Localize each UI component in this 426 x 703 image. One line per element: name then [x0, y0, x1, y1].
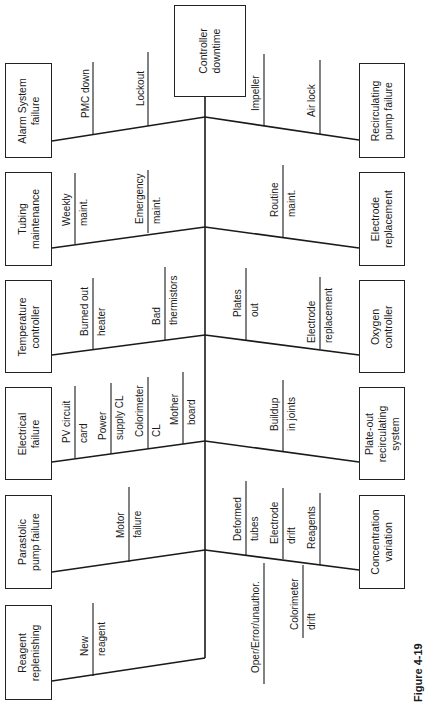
cause-title: maintenance — [29, 189, 42, 249]
cause-title: Temperature — [16, 297, 29, 356]
cause-title: Plate-out — [363, 405, 376, 462]
subcause-label: Lockout — [132, 71, 149, 106]
cause-title: failure — [29, 78, 42, 143]
cause-box-plateout: Plate-outrecirculatingsystem — [359, 387, 405, 480]
cause-title: Parastolic — [16, 513, 29, 571]
subcause-label: Motherboard — [166, 394, 200, 425]
cause-title: Tubing — [16, 189, 29, 249]
subcause-label: Routinemaint. — [266, 183, 300, 217]
effect-label-2: downtime — [210, 28, 223, 74]
cause-title: recirculating — [376, 405, 389, 462]
bone-alarm — [52, 117, 205, 141]
cause-box-parastolic: Parastolicpump failure — [5, 495, 52, 589]
cause-box-electrical: Electricalfailure — [5, 387, 52, 480]
subcause-label: ColorimeterCL — [131, 385, 165, 437]
cause-title: variation — [382, 509, 395, 574]
cause-box-reagent: Reagentreplenishing — [5, 605, 52, 700]
bone-temperature — [52, 335, 205, 355]
cause-title: pump failure — [382, 80, 395, 141]
bone-reagent — [52, 658, 205, 681]
cause-title: Reagent — [16, 624, 29, 681]
cause-title: replenishing — [29, 624, 42, 681]
cause-title: Alarm System — [16, 78, 29, 143]
subcause-label: Electrodedrift — [266, 502, 300, 544]
subcause-label: Air lock — [303, 84, 320, 117]
cause-box-oxygen: Oxygencontroller — [359, 280, 405, 373]
subcause-label: Oper/Error/unauthor. — [247, 581, 264, 673]
cause-title: Oxygen — [369, 305, 382, 348]
subcause-label: Weeklymaint. — [58, 193, 92, 226]
subcause-label: Burned outheater — [76, 287, 110, 336]
bone-concentration — [205, 550, 359, 570]
cause-title: Recirculating — [369, 80, 382, 141]
subcause-label: PV circuitcard — [58, 401, 92, 443]
effect-label: Controller — [197, 28, 210, 74]
subcause-label: Newreagent — [76, 622, 110, 656]
cause-title: system — [389, 405, 402, 462]
effect-box: Controllerdowntime — [174, 5, 246, 97]
cause-title: failure — [29, 412, 42, 455]
subcause-label: PMC down — [77, 69, 94, 118]
cause-box-alarm: Alarm Systemfailure — [5, 63, 52, 158]
subcause-label: Motorfailure — [112, 511, 146, 538]
cause-title: controller — [29, 297, 42, 356]
subcause-label: Colorimeterdrift — [286, 578, 320, 630]
cause-title: Electrode — [369, 190, 382, 248]
cause-title: replacement — [382, 190, 395, 248]
subcause-label: Deformedtubes — [229, 497, 263, 541]
bone-recirculating — [205, 117, 359, 140]
subcause-label: Badthermistors — [148, 276, 182, 325]
cause-title: controller — [382, 305, 395, 348]
subcause-label: Powersupply CL — [94, 396, 128, 440]
cause-box-electrode: Electrodereplacement — [359, 172, 405, 266]
cause-box-concentration: Concentrationvariation — [359, 495, 405, 589]
bone-electrode — [205, 227, 359, 248]
cause-box-temperature: Temperaturecontroller — [5, 280, 52, 373]
cause-title: pump failure — [29, 513, 42, 571]
cause-title: Electrical — [16, 412, 29, 455]
cause-box-tubing: Tubingmaintenance — [5, 172, 52, 266]
subcause-label: Impeller — [247, 75, 264, 111]
figure-caption: Figure 4-19 — [412, 643, 424, 702]
cause-title: Concentration — [369, 509, 382, 574]
cause-box-recirculating: Recirculatingpump failure — [359, 63, 405, 158]
subcause-label: Reagents — [303, 506, 320, 549]
subcause-label: Platesout — [229, 289, 263, 317]
bone-plateout — [205, 441, 359, 462]
subcause-label: Buildupin joints — [266, 397, 300, 431]
subcause-label: Electrodereplacement — [303, 288, 337, 343]
subcause-label: Emergencymaint. — [131, 173, 165, 224]
